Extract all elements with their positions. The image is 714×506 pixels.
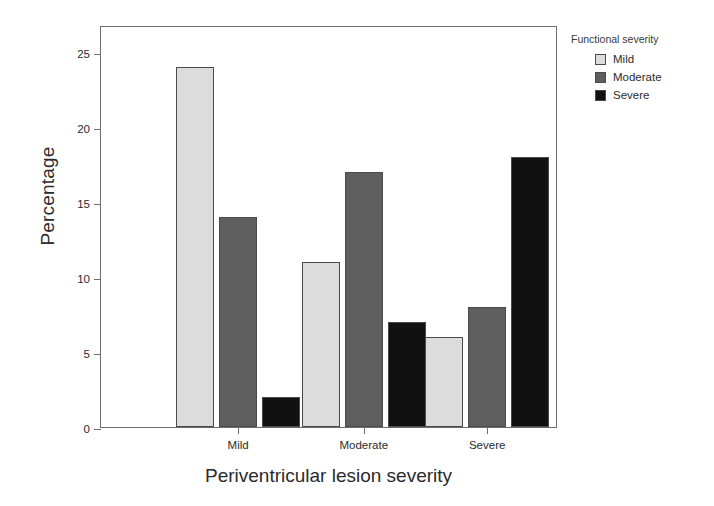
bars-container (101, 27, 556, 427)
legend-item-mild: Mild (595, 53, 711, 65)
legend-swatch-moderate (595, 72, 606, 83)
bar-severe-mild (425, 337, 463, 427)
bar-chart-figure: Percentage 0510152025 MildModerateSevere… (0, 0, 714, 506)
bar-severe-moderate (468, 307, 506, 427)
bar-severe-severe (511, 157, 549, 427)
x-tick-severe (487, 427, 488, 434)
bar-mild-moderate (219, 217, 257, 427)
legend-label-mild: Mild (613, 53, 634, 65)
legend-label-moderate: Moderate (613, 71, 662, 83)
legend-items: MildModerateSevere (571, 53, 711, 101)
x-tick-label-severe: Severe (469, 439, 505, 451)
legend-swatch-mild (595, 54, 606, 65)
legend-swatch-severe (595, 90, 606, 101)
y-tick-20 (94, 129, 101, 130)
y-tick-15 (94, 204, 101, 205)
y-tick-label-10: 10 (77, 273, 90, 285)
y-tick-5 (94, 354, 101, 355)
bar-moderate-moderate (345, 172, 383, 427)
legend: Functional severity MildModerateSevere (571, 33, 711, 107)
x-axis-title: Periventricular lesion severity (100, 465, 557, 487)
bar-mild-mild (176, 67, 214, 427)
y-tick-label-15: 15 (77, 198, 90, 210)
x-tick-moderate (364, 427, 365, 434)
y-tick-label-0: 0 (84, 423, 90, 435)
x-tick-mild (238, 427, 239, 434)
y-tick-label-25: 25 (77, 48, 90, 60)
y-tick-0 (94, 429, 101, 430)
plot-area: 0510152025 MildModerateSevere (100, 26, 557, 428)
bar-moderate-severe (388, 322, 426, 427)
x-tick-label-mild: Mild (228, 439, 249, 451)
y-tick-label-20: 20 (77, 123, 90, 135)
x-tick-label-moderate: Moderate (339, 439, 388, 451)
legend-title: Functional severity (571, 33, 711, 45)
legend-item-severe: Severe (595, 89, 711, 101)
legend-label-severe: Severe (613, 89, 649, 101)
bar-moderate-mild (302, 262, 340, 427)
legend-item-moderate: Moderate (595, 71, 711, 83)
y-tick-10 (94, 279, 101, 280)
y-tick-25 (94, 54, 101, 55)
bar-mild-severe (262, 397, 300, 427)
y-axis-title: Percentage (37, 86, 59, 306)
y-tick-label-5: 5 (84, 348, 90, 360)
